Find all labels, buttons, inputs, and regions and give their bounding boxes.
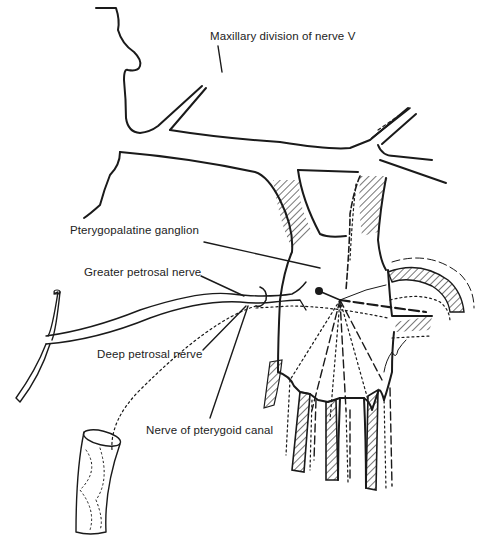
bone-outline-left <box>84 152 120 218</box>
label-deep-petrosal-nerve: Deep petrosal nerve <box>97 348 202 360</box>
pterygoid-plates <box>264 360 392 490</box>
label-maxillary-division: Maxillary division of nerve V <box>210 30 355 42</box>
label-nerve-of-pterygoid-canal: Nerve of pterygoid canal <box>146 424 273 436</box>
maxillary-branch <box>372 108 446 183</box>
artist-signature <box>384 340 406 372</box>
label-pterygopalatine-ganglion: Pterygopalatine ganglion <box>70 224 199 236</box>
label-greater-petrosal-nerve: Greater petrosal nerve <box>84 266 201 278</box>
anatomy-drawing <box>0 0 489 544</box>
diagram-canvas: Maxillary division of nerve V Pterygopal… <box>0 0 489 544</box>
carotid-segment <box>76 427 122 534</box>
